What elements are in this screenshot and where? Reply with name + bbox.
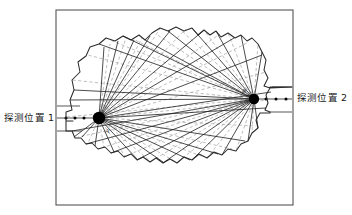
node-b-label: B xyxy=(242,87,247,95)
left-detector-label: 探测位置 1 xyxy=(4,112,54,123)
node-a xyxy=(93,112,105,124)
diagram-canvas: AB 探测位置 1 探测位置 2 xyxy=(0,0,352,215)
diagram-container: AB 探测位置 1 探测位置 2 xyxy=(0,0,352,215)
node-b xyxy=(249,94,259,104)
node-a-label: A xyxy=(104,127,110,135)
right-axis-tick-dot-2 xyxy=(285,98,288,101)
right-detector-label: 探测位置 2 xyxy=(297,92,347,103)
canvas-background xyxy=(0,0,352,215)
left-axis-tick-dot-1 xyxy=(74,117,77,120)
left-axis-tick-dot-2 xyxy=(83,117,86,120)
right-axis-tick-dot-1 xyxy=(275,98,278,101)
